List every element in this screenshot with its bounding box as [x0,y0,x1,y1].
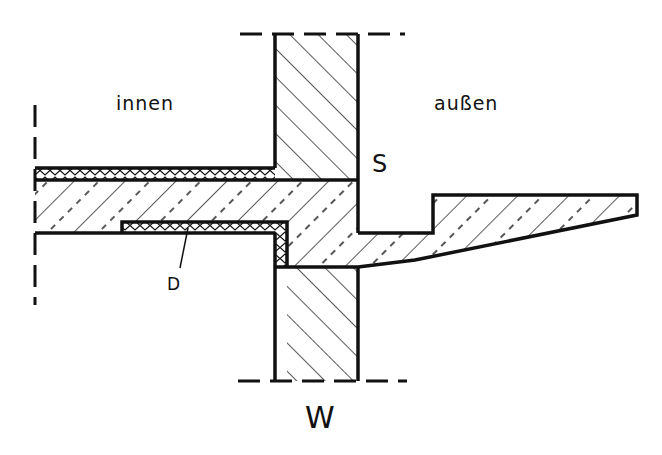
label-wall: W [305,400,336,435]
label-slab: S [372,150,388,178]
insulation-top [35,168,275,180]
wall-lower [287,267,358,381]
section-drawing [0,0,662,455]
insulation-bottom [122,222,287,267]
label-outside: außen [434,92,498,114]
label-inside: innen [116,92,174,114]
wall-upper [275,34,358,180]
label-insulation: D [167,274,181,294]
